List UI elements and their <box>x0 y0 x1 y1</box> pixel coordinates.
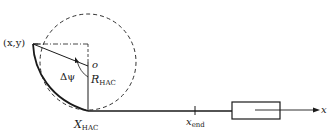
point-label: (x,y) <box>3 37 25 48</box>
radius-label-main: R <box>90 73 99 86</box>
x-end-label: xend <box>186 116 205 129</box>
angle-label: Δψ <box>60 71 75 82</box>
x-axis-arrowhead-icon <box>313 108 320 113</box>
angle-arrowhead-icon <box>75 57 79 63</box>
x-axis-label: x <box>321 104 327 115</box>
tangent-label: XHAC <box>73 118 98 132</box>
hac-geometry-diagram: (x,y) o Δψ RHAC XHAC xend x <box>0 0 327 137</box>
vehicle-box <box>232 102 280 119</box>
x-end-label-sub: end <box>192 121 206 129</box>
radius-line-to-point <box>33 44 88 66</box>
tangent-label-sub: HAC <box>82 124 99 132</box>
radius-label-sub: HAC <box>99 79 116 87</box>
radius-label: RHAC <box>90 73 116 87</box>
center-label: o <box>92 59 98 70</box>
